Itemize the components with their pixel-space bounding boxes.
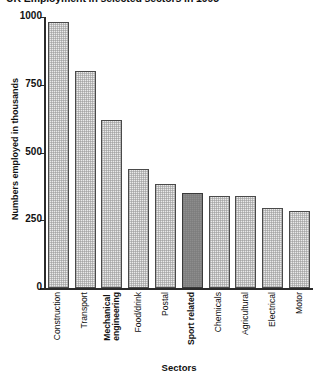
bar-agricultural[interactable] (235, 196, 256, 288)
y-tick-label: 500 (25, 146, 42, 157)
bar-slot (99, 17, 126, 288)
category-label-sport-related: Sport related (188, 292, 197, 345)
category-label-line: Motor (294, 292, 304, 314)
category-label-food-drink: Food/drink (134, 292, 143, 333)
bar-slot (152, 17, 179, 288)
category-label-mechanical-engineering: Mechanicalengineering (103, 292, 121, 341)
category-label-agricultural: Agricultural (241, 292, 250, 335)
bar-slot (45, 17, 72, 288)
category-label-line: Agricultural (240, 292, 250, 335)
bar-food-drink[interactable] (128, 169, 149, 288)
bar-construction[interactable] (48, 22, 69, 288)
plot-area: 02505007501000 (45, 17, 313, 288)
y-axis-title: Numbers employed in thousands (10, 80, 20, 220)
category-slot: Mechanicalengineering (99, 292, 126, 358)
category-slot: Postal (152, 292, 179, 358)
category-label-chemicals: Chemicals (215, 292, 224, 332)
bar-slot (206, 17, 233, 288)
category-label-transport: Transport (81, 292, 90, 328)
bar-motor[interactable] (289, 211, 310, 288)
category-label-construction: Construction (54, 292, 63, 340)
chart-title: UK Employment in selected sectors in 199… (6, 0, 219, 4)
category-slot: Electrical (259, 292, 286, 358)
y-tick-label: 0 (36, 281, 42, 292)
bar-series (45, 17, 313, 288)
category-label-line: Transport (80, 292, 90, 328)
category-slot: Motor (286, 292, 313, 358)
bar-electrical[interactable] (262, 208, 283, 288)
category-label-line: Postal (160, 292, 170, 316)
category-slot: Agricultural (233, 292, 260, 358)
bar-postal[interactable] (155, 184, 176, 288)
bar-slot (179, 17, 206, 288)
category-label-postal: Postal (161, 292, 170, 316)
category-slot: Construction (45, 292, 72, 358)
y-tick-label: 250 (25, 213, 42, 224)
y-tick-label: 750 (25, 78, 42, 89)
x-axis-title: Sectors (45, 362, 313, 373)
x-axis-line (40, 288, 313, 290)
category-slot: Transport (72, 292, 99, 358)
category-label-line: Electrical (267, 292, 277, 327)
bar-chemicals[interactable] (209, 196, 230, 288)
category-slot: Chemicals (206, 292, 233, 358)
y-tick-label: 1000 (20, 10, 42, 21)
category-label-electrical: Electrical (268, 292, 277, 327)
bar-sport-related[interactable] (182, 193, 203, 288)
bar-slot (233, 17, 260, 288)
category-slot: Sport related (179, 292, 206, 358)
bar-slot (259, 17, 286, 288)
category-slot: Food/drink (125, 292, 152, 358)
bar-slot (286, 17, 313, 288)
category-label-motor: Motor (295, 292, 304, 314)
category-label-line: Chemicals (214, 292, 224, 332)
bar-slot (72, 17, 99, 288)
category-label-line: Construction (53, 292, 63, 340)
category-label-line: Food/drink (133, 292, 143, 333)
category-label-line: Sport related (187, 292, 197, 345)
bar-transport[interactable] (75, 71, 96, 288)
bar-mechanical-engineering[interactable] (101, 120, 122, 288)
x-axis-category-labels: ConstructionTransportMechanicalengineeri… (45, 292, 313, 358)
category-label-line: engineering (112, 292, 121, 341)
bar-slot (125, 17, 152, 288)
